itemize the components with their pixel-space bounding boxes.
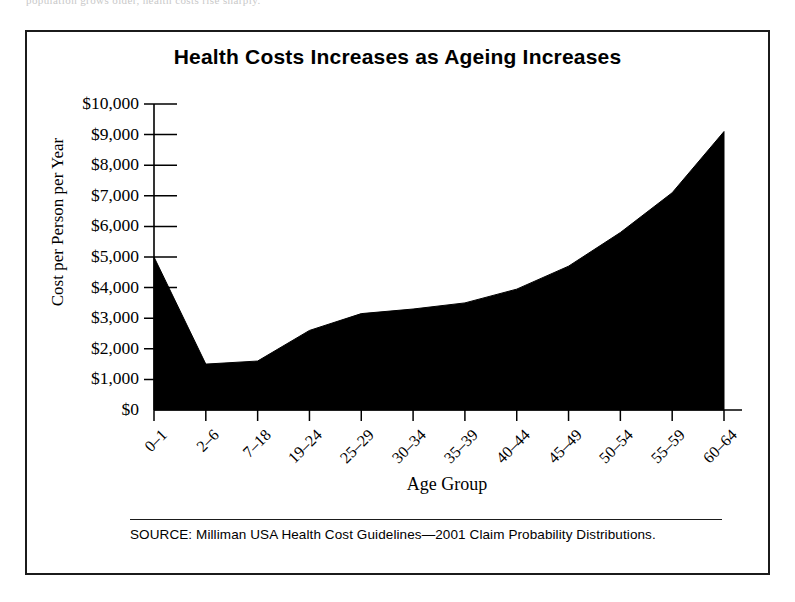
x-axis-title: Age Group: [147, 474, 747, 495]
scan-artifact-text: population grows older, health costs ris…: [26, 0, 746, 10]
figure-frame: Health Costs Increases as Ageing Increas…: [25, 30, 770, 575]
source-divider: [130, 519, 722, 520]
plot-area: Cost per Person per Year $0$1,000$2,000$…: [27, 32, 768, 573]
source-note: SOURCE: Milliman USA Health Cost Guideli…: [130, 527, 730, 542]
